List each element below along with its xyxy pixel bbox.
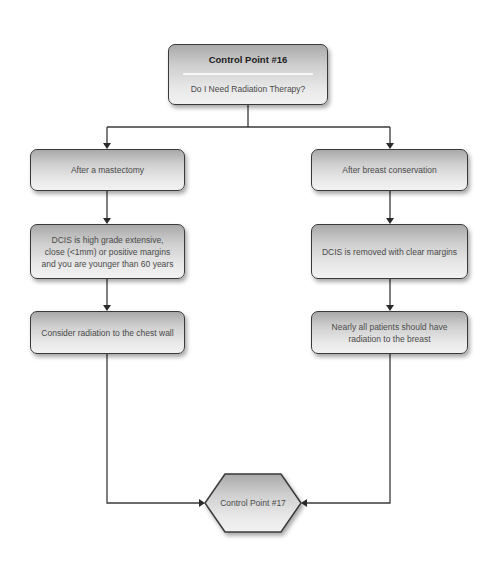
after-mastectomy-label: After a mastectomy (71, 164, 144, 176)
consider-chest-wall-box: Consider radiation to the chest wall (30, 311, 185, 354)
consider-chest-wall-label: Consider radiation to the chest wall (41, 327, 173, 339)
after-breast-conservation-box: After breast conservation (311, 149, 468, 191)
dcis-high-grade-box: DCIS is high grade extensive, close (<1m… (30, 224, 185, 279)
radiation-to-breast-label: Nearly all patients should have radiatio… (326, 321, 453, 345)
radiation-to-breast-box: Nearly all patients should have radiatio… (311, 311, 468, 354)
dcis-clear-margins-label: DCIS is removed with clear margins (322, 246, 457, 258)
after-breast-conservation-label: After breast conservation (342, 164, 437, 176)
after-mastectomy-box: After a mastectomy (30, 149, 185, 191)
control-point-16-question: Do I Need Radiation Therapy? (191, 83, 306, 95)
control-point-17-label: Control Point #17 (205, 473, 301, 533)
control-point-16-box: Control Point #16 Do I Need Radiation Th… (168, 44, 328, 105)
dcis-clear-margins-box: DCIS is removed with clear margins (311, 224, 468, 279)
dcis-high-grade-label: DCIS is high grade extensive, close (<1m… (41, 234, 174, 270)
flowchart: Control Point #16 Do I Need Radiation Th… (0, 0, 493, 564)
control-point-16-title: Control Point #16 (209, 54, 288, 66)
title-separator (183, 73, 313, 75)
